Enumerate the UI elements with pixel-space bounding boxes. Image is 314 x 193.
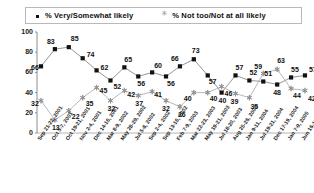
data-point-label: 52: [113, 83, 121, 90]
data-point-label: 73: [192, 47, 200, 54]
data-point-label: 51: [264, 70, 272, 77]
data-point-label: 56: [137, 80, 145, 87]
data-point-label: 56: [167, 80, 175, 87]
data-point-label: 41: [154, 91, 162, 98]
data-point-label: 42: [127, 91, 135, 98]
y-axis-tick-label: 40: [13, 89, 33, 96]
data-point-label: 55: [291, 66, 299, 73]
data-point-label: 40: [219, 97, 227, 104]
y-axis-tick-label: 20: [13, 109, 33, 116]
data-point-label: 85: [71, 35, 79, 42]
data-point-label: 59: [254, 63, 262, 70]
data-point-label: 83: [47, 38, 55, 45]
data-point-label: 40: [184, 95, 192, 102]
data-point-label: 60: [154, 62, 162, 69]
data-point-label: 57: [209, 78, 217, 85]
data-point-label: 66: [171, 55, 179, 62]
data-point-label: 32: [31, 100, 39, 107]
y-axis-tick-label: 80: [13, 48, 33, 55]
data-point-label: 65: [124, 56, 132, 63]
data-point-label: 45: [100, 87, 108, 94]
y-axis-tick-label: 100: [13, 28, 33, 35]
data-point-label: 63: [277, 57, 285, 64]
data-point-label: 57: [236, 64, 244, 71]
data-point-label: 42: [308, 95, 314, 102]
data-point-label: 44: [293, 92, 301, 99]
data-point-label: 48: [273, 89, 281, 96]
chart-container: % Very/Somewhat likely % Not too/Not at …: [0, 0, 314, 193]
data-point-label: 52: [249, 69, 257, 76]
y-axis-tick-label: 60: [13, 68, 33, 75]
data-point-label: 46: [225, 90, 233, 97]
data-point-label: 66: [31, 64, 39, 71]
data-point-label: 40: [210, 95, 218, 102]
data-point-label: 62: [101, 64, 109, 71]
data-point-label: 39: [231, 98, 239, 105]
data-point-label: 74: [87, 51, 95, 58]
data-point-label: 57: [309, 66, 314, 73]
y-axis-tick-label: 0: [13, 129, 33, 136]
